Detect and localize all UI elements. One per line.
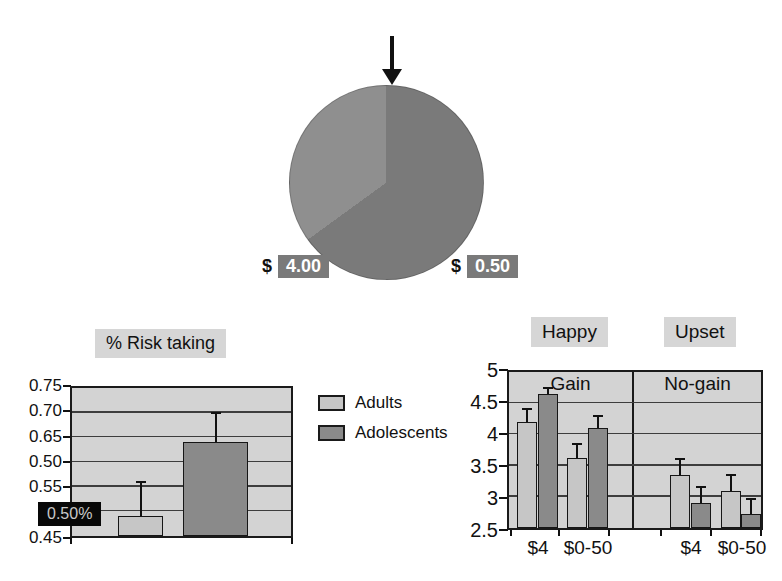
error-bar [576,444,578,458]
error-bar-cap [675,458,685,460]
error-bar-cap [522,408,532,410]
error-bar [750,499,752,515]
emotion-bar-no-gain-$0-50-adolescents [741,514,761,528]
error-bar-cap [572,443,582,445]
adults-swatch-icon [318,395,345,411]
emotion-header-happy: Happy [531,317,608,347]
error-bar [679,459,681,475]
pie-label-low-reward: $ 0.50 [451,255,518,278]
panel-divider [632,372,634,528]
dollar-sign: $ [451,256,461,277]
emotion-ytick-label: 4 [450,423,498,446]
emotion-bar-no-gain-$0-50-adults [721,491,741,528]
panel-label-no-gain: No-gain [634,373,761,395]
emotion-header-upset: Upset [664,317,736,347]
gridline [72,411,291,413]
pie-value-box-050: 0.50 [467,255,518,278]
error-bar-cap [593,415,603,417]
risk-ytick-label: 0.50 [8,452,62,472]
emotion-xtick [660,530,662,536]
emotion-ytick-label: 4.5 [450,391,498,414]
error-bar-cap [136,481,146,483]
error-bar-cap [543,387,553,389]
error-bar [700,487,702,503]
error-bar [730,475,732,491]
pie-label-high-reward: $ 4.00 [262,255,329,278]
emotion-xtick-label: $0-50 [702,537,782,559]
legend-label-adults: Adults [355,393,402,413]
error-bar [597,416,599,428]
gridline [72,485,291,487]
emotion-bar-no-gain-$4-adolescents [691,503,711,528]
risk-bar-adolescents [183,442,248,536]
emotion-ytick-label: 3.5 [450,455,498,478]
emotion-xtick [760,530,762,536]
legend-item-adults: Adults [318,393,448,413]
legend-label-adolescents: Adolescents [355,423,448,443]
gridline [72,436,291,438]
emotion-chart-plot: Gain No-gain [507,370,763,530]
emotion-ytick-label: 2.5 [450,519,498,542]
legend-item-adolescents: Adolescents [318,423,448,443]
risk-ytick-label: 0.75 [8,376,62,396]
emotion-bar-gain-$4-adolescents [538,394,558,528]
emotion-xtick [608,530,610,536]
emotion-bar-gain-$0-50-adolescents [588,428,608,528]
emotion-bar-no-gain-$4-adults [670,475,690,528]
risk-overlay-box: 0.50% [38,502,101,526]
risk-bar-adults [118,516,163,536]
emotion-xtick [510,530,512,536]
emotion-xtick [710,530,712,536]
risk-chart-plot [70,386,293,538]
error-bar-cap [696,486,706,488]
figure-canvas: $ 4.00 $ 0.50 % Risk taking 0.750.700.65… [0,0,782,581]
gridline [72,461,291,463]
risk-x-tick [291,538,293,544]
risk-ytick-label: 0.65 [8,427,62,447]
emotion-xtick-label: $0-50 [548,537,628,559]
risk-x-tick [70,538,72,544]
arrow-shaft [390,36,394,71]
gridline [72,510,291,512]
risk-ytick-label: 0.70 [8,401,62,421]
error-bar-cap [746,498,756,500]
adolescents-swatch-icon [318,425,345,441]
emotion-bar-gain-$0-50-adults [567,458,587,528]
risk-chart-title: % Risk taking [95,329,226,358]
pie-wheel [289,85,484,280]
risk-ytick-label: 0.55 [8,477,62,497]
emotion-ytick-label: 5 [450,359,498,382]
pie-value-box-4: 4.00 [278,255,329,278]
emotion-ytick-label: 3 [450,487,498,510]
error-bar [215,413,217,443]
legend: Adults Adolescents [318,393,448,453]
emotion-xtick [558,530,560,536]
panel-label-gain: Gain [509,373,632,395]
arrow-head [382,69,402,85]
error-bar [140,482,142,517]
error-bar [526,409,528,421]
emotion-bar-gain-$4-adults [517,422,537,528]
dollar-sign: $ [262,256,272,277]
risk-ytick-label: 0.45 [8,528,62,548]
error-bar-cap [726,474,736,476]
error-bar-cap [211,412,221,414]
